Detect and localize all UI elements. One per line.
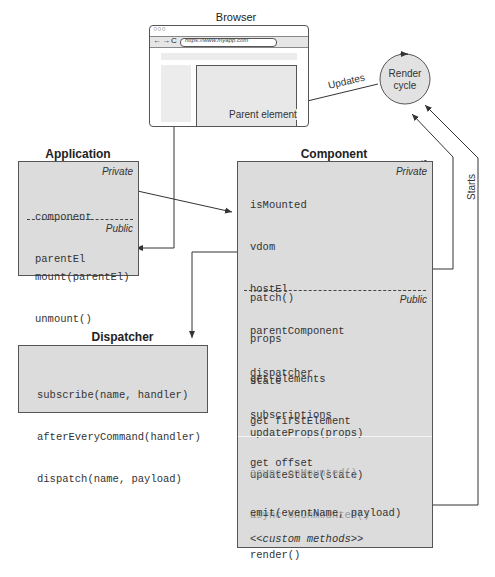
method-unmount: unmount()	[35, 312, 130, 326]
component-private-tag: Private	[396, 166, 427, 177]
member-vdom: vdom	[250, 240, 345, 254]
method-render: render()	[250, 548, 401, 562]
browser-title: Browser	[196, 11, 276, 23]
window-controls-icon: ○○○	[153, 25, 166, 32]
render-cycle-line1: Render	[380, 68, 430, 80]
method-patch: patch()	[250, 291, 294, 305]
component-custom-methods: <<custom methods>>	[250, 532, 363, 546]
method-afterEveryCommand: afterEveryCommand(handler)	[37, 430, 201, 444]
getter-elements: get elements	[250, 372, 351, 386]
member-isMounted: isMounted	[250, 198, 345, 212]
application-private-tag: Private	[102, 166, 133, 177]
reload-icon[interactable]: C	[171, 36, 177, 45]
method-dispatch: dispatch(name, payload)	[37, 472, 201, 486]
back-icon[interactable]: ←	[153, 36, 161, 45]
render-cycle-line2: cycle	[380, 80, 430, 92]
starts-label: Starts	[466, 174, 477, 200]
application-title: Application	[18, 147, 138, 161]
parent-element-label: Parent element	[229, 109, 297, 120]
forward-icon[interactable]: →	[162, 36, 170, 45]
component-box: Private isMounted vdom hostEl parentComp…	[237, 161, 433, 548]
url-text: https://www.myapp.com	[185, 37, 248, 43]
dispatcher-box: subscribe(name, handler) afterEveryComma…	[18, 345, 208, 413]
dispatcher-title: Dispatcher	[60, 330, 185, 344]
lifecycle-separator	[238, 436, 432, 437]
browser-toolbar: ← → C https://www.myapp.com	[150, 37, 308, 48]
component-public-tag: Public	[400, 294, 427, 305]
component-title: Component	[236, 147, 432, 161]
application-public-tag: Public	[106, 223, 133, 234]
method-emit: emit(eventName, payload)	[250, 506, 401, 520]
method-mount: mount(parentEl)	[35, 270, 130, 284]
component-divider	[244, 290, 426, 291]
method-subscribe: subscribe(name, handler)	[37, 388, 201, 402]
address-bar[interactable]: https://www.myapp.com	[180, 38, 277, 47]
page-header-placeholder	[161, 53, 297, 60]
render-cycle-label: Render cycle	[380, 68, 430, 92]
application-box: Private component parentEl Public mount(…	[18, 161, 139, 276]
dispatcher-methods: subscribe(name, handler) afterEveryComma…	[37, 360, 201, 514]
application-divider	[27, 219, 133, 220]
page-sidebar-placeholder	[161, 65, 191, 122]
component-public-methods: emit(eventName, payload) render() mount(…	[250, 478, 401, 577]
member-component: component	[35, 210, 92, 224]
